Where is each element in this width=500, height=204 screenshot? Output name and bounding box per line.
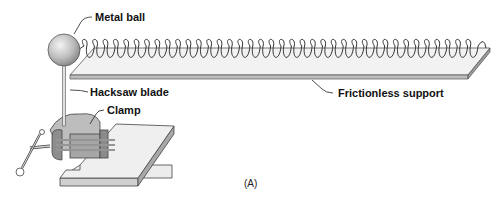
label-frictionless-support: Frictionless support xyxy=(338,87,444,99)
hacksaw-blade xyxy=(63,64,66,126)
label-metal-ball: Metal ball xyxy=(95,11,145,23)
label-clamp: Clamp xyxy=(107,104,141,116)
figure-caption: (A) xyxy=(244,178,257,189)
metal-ball xyxy=(48,34,80,66)
label-hacksaw-blade: Hacksaw blade xyxy=(90,86,169,98)
spring-mass-diagram: Metal ball Hacksaw blade Clamp Frictionl… xyxy=(0,0,500,204)
